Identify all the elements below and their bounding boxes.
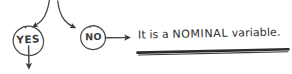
outcome-prefix: It is a (138, 28, 173, 42)
outcome-underline (138, 49, 289, 55)
node-label-yes: YES (12, 32, 44, 45)
outcome-suffix: variable. (228, 26, 281, 40)
connector-incoming-to-yes (35, 0, 50, 26)
outcome-emphasis: NOMINAL (172, 27, 228, 41)
connector-incoming-to-no (58, 1, 74, 27)
node-label-no: NO (80, 31, 107, 42)
flowchart-canvas: YES NO It is a NOMINAL variable. (0, 0, 292, 74)
